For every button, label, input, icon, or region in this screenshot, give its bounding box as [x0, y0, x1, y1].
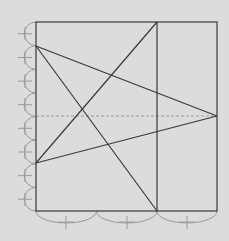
left-measure-arcs [18, 22, 36, 211]
bottom-measure-arcs [36, 211, 217, 229]
geometry-diagram [0, 0, 229, 241]
